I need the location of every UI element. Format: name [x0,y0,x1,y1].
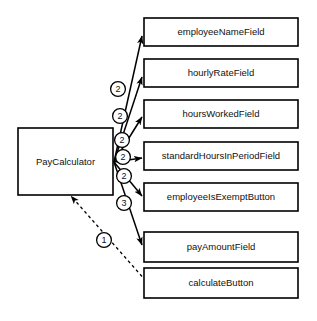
node-label: calculateButton [189,277,254,288]
node-label: employeeIsExemptButton [167,191,275,202]
sequence-badge-msg-standardHoursInPeriodField: 2 [116,150,131,165]
sequence-badge-msg-employeeIsExemptButton: 2 [117,169,132,184]
collaboration-diagram: PayCalculatoremployeeNameFieldhourlyRate… [0,0,317,321]
sequence-badge-msg-hourlyRateField: 2 [113,109,128,124]
node-label: employeeNameField [177,26,264,37]
node-hoursworkedfield[interactable]: hoursWorkedField [144,100,298,128]
node-paycalculator[interactable]: PayCalculator [18,128,113,195]
node-label: payAmountField [187,241,256,252]
node-group: PayCalculatoremployeeNameFieldhourlyRate… [18,18,298,298]
sequence-badge-number: 2 [121,171,126,181]
node-label: hoursWorkedField [183,108,260,119]
node-employeeisexemptbutton[interactable]: employeeIsExemptButton [144,183,298,211]
node-hourlyratefield[interactable]: hourlyRateField [144,59,298,87]
node-label: hourlyRateField [188,67,255,78]
sequence-badge-msg-calculateButton: 1 [97,233,112,248]
sequence-badge-msg-payAmountField: 3 [117,196,132,211]
sequence-badge-number: 2 [119,135,124,145]
sequence-badge-msg-hoursWorkedField: 2 [115,133,130,148]
diagram-canvas: PayCalculatoremployeeNameFieldhourlyRate… [0,0,317,321]
node-employeenamefield[interactable]: employeeNameField [144,18,298,46]
node-label: PayCalculator [36,156,95,167]
sequence-badge-number: 2 [117,111,122,121]
sequence-badge-number: 2 [120,152,125,162]
node-calculatebutton[interactable]: calculateButton [144,268,298,298]
node-payamountfield[interactable]: payAmountField [144,232,298,262]
sequence-badge-number: 2 [115,84,120,94]
sequence-badge-number: 3 [121,198,126,208]
sequence-badge-number: 1 [101,235,106,245]
node-label: standardHoursInPeriodField [162,150,280,161]
node-standardhoursinperiodfield[interactable]: standardHoursInPeriodField [144,142,298,170]
sequence-badge-msg-employeeNameField: 2 [111,82,126,97]
